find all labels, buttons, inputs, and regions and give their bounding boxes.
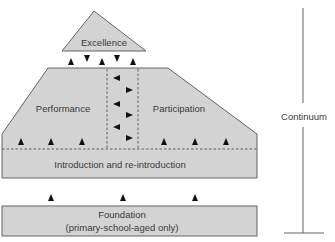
continuum-axis: Continuum (281, 8, 327, 233)
middle-levels: Performance Participation Introduction a… (2, 68, 257, 178)
excellence-level: Excellence (62, 11, 146, 51)
arrow-up-icon (68, 58, 74, 65)
excellence-link-arrows (68, 55, 136, 65)
continuum-label: Continuum (281, 111, 327, 122)
introduction-label: Introduction and re-introduction (54, 159, 186, 170)
foundation-label: Foundation (98, 209, 146, 220)
arrow-up-icon (130, 58, 136, 65)
participation-label: Participation (153, 103, 205, 114)
excellence-label: Excellence (81, 37, 127, 48)
arrow-down-icon (114, 55, 120, 62)
arrow-down-icon (84, 55, 90, 62)
sport-development-diagram: Excellence Performance Participation Int… (0, 0, 335, 242)
arrow-up-icon (120, 194, 126, 201)
foundation-level: Foundation (primary-school-aged only) (2, 206, 257, 236)
foundation-to-introduction-arrows (48, 194, 198, 201)
foundation-sublabel: (primary-school-aged only) (66, 222, 179, 233)
performance-label: Performance (36, 103, 90, 114)
arrow-up-icon (48, 194, 54, 201)
arrow-up-icon (192, 194, 198, 201)
arrow-up-icon (99, 58, 105, 65)
